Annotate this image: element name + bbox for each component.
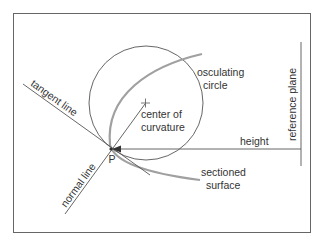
- normal-line-label: normal line: [58, 160, 98, 209]
- osculating-circle-label-2: circle: [203, 79, 228, 91]
- center-label-2: curvature: [141, 121, 185, 133]
- normal-line: [65, 104, 145, 214]
- point-p-marker: [109, 147, 112, 150]
- sectioned-surface-label-1: sectioned: [201, 166, 246, 178]
- reference-plane-label: reference plane: [286, 68, 298, 141]
- curvature-diagram: P tangent line normal line osculating ci…: [0, 0, 324, 246]
- osculating-circle-label-1: osculating: [197, 66, 244, 78]
- sectioned-surface-label-2: surface: [206, 179, 241, 191]
- tangent-line-label: tangent line: [29, 77, 80, 118]
- point-p-label: P: [108, 153, 115, 165]
- height-label: height: [240, 135, 269, 147]
- center-label-1: center of: [141, 108, 182, 120]
